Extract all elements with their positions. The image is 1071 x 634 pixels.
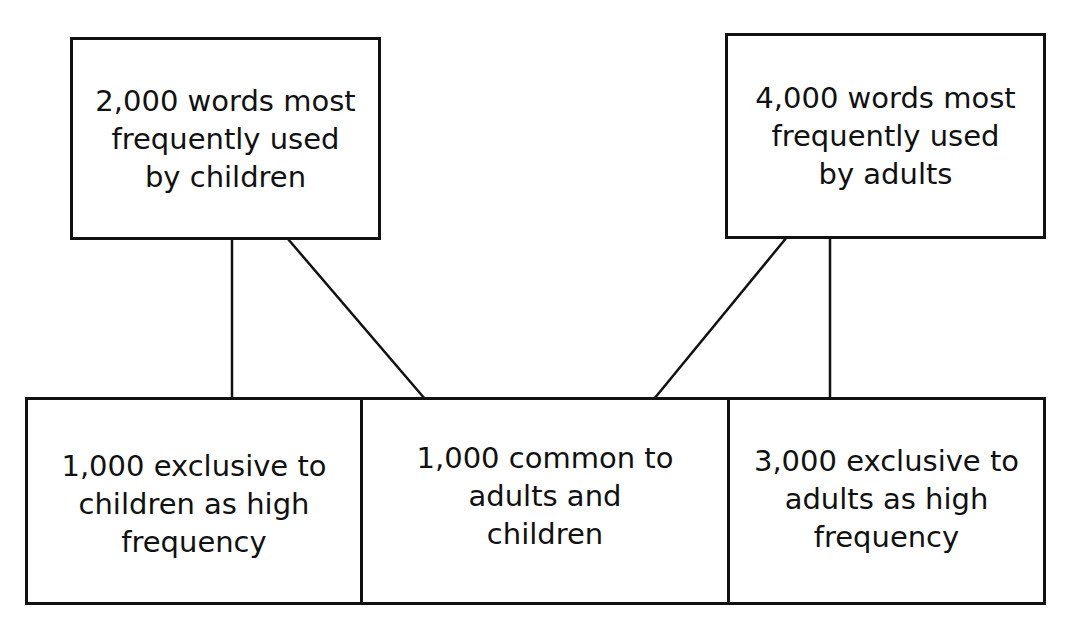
text-line: children as high (61, 485, 326, 523)
text-line: frequency (754, 518, 1019, 556)
bottom-row: 1,000 exclusive to children as high freq… (25, 397, 1046, 605)
box-children-words-text: 2,000 words most frequently used by chil… (95, 82, 355, 196)
text-line: adults as high (754, 480, 1019, 518)
connector-children-to-common (288, 239, 425, 399)
box-adult-words: 4,000 words most frequently used by adul… (725, 33, 1046, 239)
text-line: by adults (755, 155, 1015, 193)
text-line: 4,000 words most (755, 79, 1015, 117)
text-line: children (417, 515, 674, 553)
box-children-exclusive-text: 1,000 exclusive to children as high freq… (61, 447, 326, 561)
box-adults-exclusive-text: 3,000 exclusive to adults as high freque… (754, 442, 1019, 556)
box-children-exclusive: 1,000 exclusive to children as high freq… (28, 400, 363, 602)
box-adult-words-text: 4,000 words most frequently used by adul… (755, 79, 1015, 193)
text-line: 3,000 exclusive to (754, 442, 1019, 480)
word-frequency-diagram: 2,000 words most frequently used by chil… (0, 0, 1071, 634)
text-line: adults and (417, 477, 674, 515)
box-adults-exclusive: 3,000 exclusive to adults as high freque… (730, 400, 1043, 602)
text-line: 1,000 exclusive to (61, 447, 326, 485)
text-line: frequency (61, 523, 326, 561)
box-children-words: 2,000 words most frequently used by chil… (70, 37, 381, 240)
connector-adults-to-common (654, 237, 787, 399)
text-line: by children (95, 158, 355, 196)
text-line: frequently used (95, 120, 355, 158)
text-line: 1,000 common to (417, 439, 674, 477)
text-line: 2,000 words most (95, 82, 355, 120)
box-common: 1,000 common to adults and children (363, 400, 730, 602)
box-common-text: 1,000 common to adults and children (417, 439, 674, 553)
text-line: frequently used (755, 117, 1015, 155)
